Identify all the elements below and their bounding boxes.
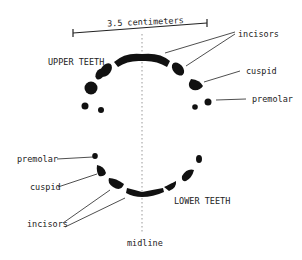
upper-premolar-right-b	[205, 99, 212, 106]
lower-cuspid-right	[182, 170, 194, 182]
upper-lateral-incisor-right	[169, 60, 186, 78]
lower-premolar-left	[92, 153, 98, 159]
upper-premolar-right-a	[192, 104, 198, 110]
scale-label: 3.5 centimeters	[107, 15, 184, 28]
lower-lateral-incisor-left	[109, 178, 125, 189]
upper-cuspid-left	[85, 82, 98, 95]
lower-leaders	[57, 157, 125, 227]
upper-premolar-left-a	[82, 103, 89, 110]
upper-teeth-label: UPPER TEETH	[48, 57, 104, 67]
bite-mark-diagram: 3.5 centimeters midline UPPER TEETH inci…	[0, 0, 302, 260]
lower-teeth-label: LOWER TEETH	[174, 196, 230, 206]
upper-central-incisor-left	[114, 54, 142, 67]
lower-premolar-right	[196, 155, 202, 163]
lower-arch	[92, 153, 202, 197]
upper-premolar-label: premolar	[252, 94, 293, 104]
upper-incisors-label: incisors	[238, 29, 279, 39]
lower-incisors-label: incisors	[27, 219, 68, 229]
lower-lateral-incisor-right	[164, 181, 176, 191]
upper-premolar-left-b	[98, 107, 104, 113]
lower-central-incisor-right	[142, 188, 164, 197]
lower-cuspid-label: cuspid	[30, 182, 61, 192]
lower-cuspid-left	[97, 165, 106, 176]
midline-label: midline	[127, 238, 163, 248]
lower-central-incisor-left	[126, 188, 142, 197]
diagram-svg: 3.5 centimeters midline UPPER TEETH inci…	[0, 0, 302, 260]
upper-cuspid-label: cuspid	[246, 66, 277, 76]
upper-central-incisor-right	[142, 54, 170, 67]
lower-premolar-label: premolar	[17, 154, 58, 164]
upper-cuspid-right	[189, 79, 203, 90]
